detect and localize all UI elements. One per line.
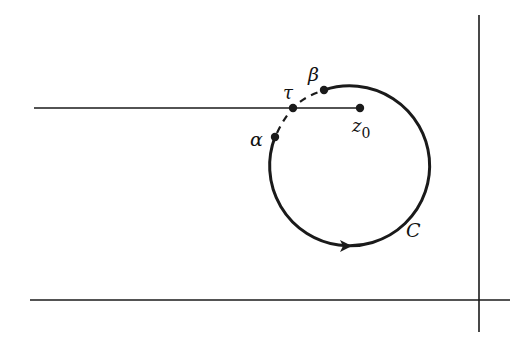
label-alpha: α: [250, 128, 263, 150]
point-alpha: [271, 133, 279, 141]
label-z0: z0: [351, 115, 370, 141]
label-beta: β: [307, 63, 319, 85]
label-tau: τ: [283, 82, 294, 103]
label-z0-subscript: 0: [361, 125, 370, 141]
point-beta: [320, 86, 328, 94]
contour-diagram: β τ α z0 C: [0, 0, 531, 344]
label-z0-main: z: [351, 115, 362, 136]
label-contour-c: C: [406, 219, 421, 241]
point-tau: [289, 104, 297, 112]
point-z0: [356, 104, 364, 112]
